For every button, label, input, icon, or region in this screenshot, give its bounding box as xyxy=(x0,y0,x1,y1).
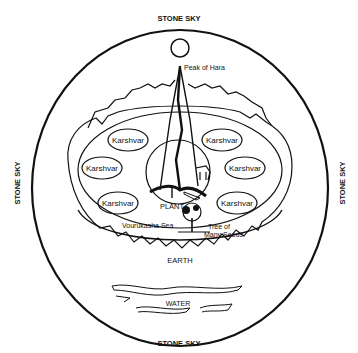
hara-roots xyxy=(150,186,206,196)
karshvar-label: Karshvar xyxy=(221,199,253,208)
earth-label: EARTH xyxy=(167,256,192,265)
bull-icon xyxy=(196,166,210,180)
plant-label: PLANT xyxy=(160,202,185,211)
karshvar-label: Karshvar xyxy=(229,164,261,173)
cosmology-diagram: Karshvar Karshvar Karshvar Karshvar Kars… xyxy=(0,0,358,353)
man-icon xyxy=(184,192,200,200)
peak-label: Peak of Hara xyxy=(184,64,225,71)
karshvar-label: Karshvar xyxy=(112,136,144,145)
stone-sky-top-label: STONE SKY xyxy=(157,14,200,23)
karshvar-label: Karshvar xyxy=(206,136,238,145)
water-label: WATER xyxy=(166,300,191,307)
earth-mountains xyxy=(68,106,292,248)
stone-sky-right-label: STONE SKY xyxy=(338,161,347,204)
stone-sky-left-label: STONE SKY xyxy=(13,161,22,204)
karshvar-label: Karshvar xyxy=(86,164,118,173)
sea-label: Vourukasha Sea xyxy=(122,222,173,229)
sun-icon xyxy=(171,39,189,57)
stone-sky-bottom-label: STONE SKY xyxy=(157,339,200,348)
karshvar-label: Karshvar xyxy=(102,199,134,208)
tree-label-line2: Many Seeds xyxy=(204,231,243,239)
tree-label-line1: Tree of xyxy=(208,223,230,230)
earth-base xyxy=(78,210,282,240)
